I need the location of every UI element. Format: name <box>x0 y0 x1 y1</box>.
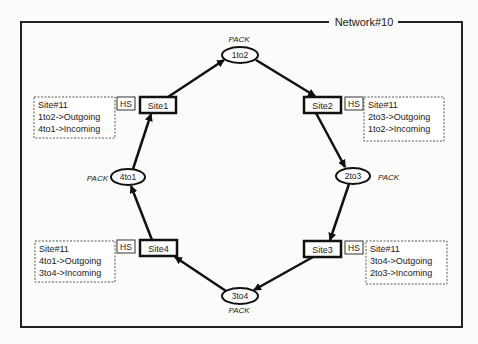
hs-tag: HS <box>348 99 360 109</box>
arc-3to4-to-site4[interactable] <box>175 257 226 291</box>
hs-tag: HS <box>120 242 132 252</box>
info-line: 4to1->Outgoing <box>39 256 101 266</box>
network-diagram: Network#10 1to2 PACK 2to3 PACK 3to4 PACK… <box>0 0 478 344</box>
hs-tag: HS <box>348 243 360 253</box>
arc-4to1-to-site1[interactable] <box>133 114 151 169</box>
arc-2to3-to-site3[interactable] <box>330 184 349 240</box>
arc-1to2-to-site2[interactable] <box>256 60 315 96</box>
transition-label: Site2 <box>312 101 333 111</box>
info-line: 1to2->Incoming <box>368 124 430 134</box>
info-line: 2to3->Incoming <box>370 268 432 278</box>
transition-label: Site4 <box>148 244 169 254</box>
place-label: 4to1 <box>120 172 137 182</box>
arc-site2-to-2to3[interactable] <box>316 113 345 167</box>
place-type-label: PACK <box>228 306 250 315</box>
place-type-label: PACK <box>228 35 250 44</box>
place-3to4[interactable]: 3to4 PACK <box>222 288 258 315</box>
transition-site4[interactable]: Site4 HS Site#11 4to1->Outgoing 3to4->In… <box>35 240 177 282</box>
transition-label: Site1 <box>148 101 169 111</box>
transition-site1[interactable]: Site1 HS Site#11 1to2->Outgoing 4to1->In… <box>34 97 176 138</box>
transition-site3[interactable]: Site3 HS Site#11 3to4->Outgoing 2to3->In… <box>304 241 447 284</box>
arc-site4-to-4to1[interactable] <box>131 186 152 240</box>
info-title: Site#11 <box>370 244 400 254</box>
transition-site2[interactable]: Site2 HS Site#11 2to3->Outgoing 1to2->In… <box>304 97 444 141</box>
info-line: 4to1->Incoming <box>38 124 100 134</box>
info-line: 1to2->Outgoing <box>38 112 100 122</box>
place-2to3[interactable]: 2to3 PACK <box>336 168 400 184</box>
transition-label: Site3 <box>312 245 333 255</box>
place-label: 1to2 <box>232 50 249 60</box>
place-type-label: PACK <box>87 174 109 183</box>
place-label: 2to3 <box>345 171 362 181</box>
place-label: 3to4 <box>232 291 249 301</box>
info-title: Site#11 <box>38 100 68 110</box>
info-title: Site#11 <box>368 100 398 110</box>
arc-site3-to-3to4[interactable] <box>254 257 313 290</box>
arc-site1-to-1to2[interactable] <box>168 60 224 97</box>
info-line: 3to4->Incoming <box>39 268 101 278</box>
place-type-label: PACK <box>378 173 400 182</box>
info-title: Site#11 <box>39 244 69 254</box>
hs-tag: HS <box>120 99 132 109</box>
network-title: Network#10 <box>335 16 394 28</box>
place-1to2[interactable]: 1to2 PACK <box>222 35 258 63</box>
info-line: 2to3->Outgoing <box>368 112 430 122</box>
place-4to1[interactable]: 4to1 PACK <box>87 169 145 185</box>
info-line: 3to4->Outgoing <box>370 256 432 266</box>
